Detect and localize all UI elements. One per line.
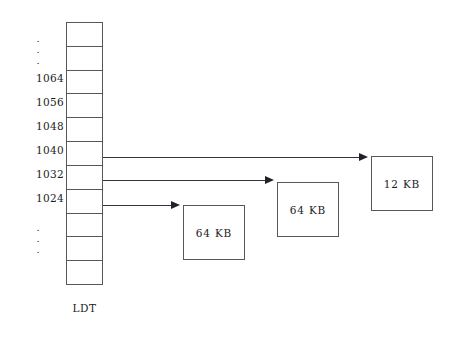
arrow-line-1032 bbox=[103, 180, 268, 181]
ldt-cell-1056 bbox=[67, 94, 102, 118]
ldt-cell-1032 bbox=[67, 166, 102, 190]
address-label-1024: 1024 bbox=[12, 192, 64, 204]
ldt-table bbox=[66, 22, 103, 285]
address-label-1040: 1040 bbox=[12, 144, 64, 156]
arrow-head-1032 bbox=[265, 176, 274, 184]
arrow-head-1040 bbox=[359, 153, 368, 161]
ldt-caption: LDT bbox=[66, 302, 103, 314]
arrow-head-1024 bbox=[171, 201, 180, 209]
ellipsis-bottom: . . . bbox=[12, 222, 64, 255]
ellipsis-dot: . bbox=[12, 55, 64, 66]
memory-segment-label: 12 KB bbox=[384, 178, 420, 190]
ellipsis-top: . . . bbox=[12, 33, 64, 66]
ellipsis-dot: . bbox=[12, 33, 64, 44]
memory-segment-box-1: 64 KB bbox=[183, 205, 245, 260]
ellipsis-dot: . bbox=[12, 244, 64, 255]
ldt-cell-1024 bbox=[67, 190, 102, 214]
ellipsis-dot: . bbox=[12, 44, 64, 55]
ellipsis-dot: . bbox=[12, 222, 64, 233]
memory-segment-label: 64 KB bbox=[196, 227, 232, 239]
ldt-cell bbox=[67, 47, 102, 71]
ldt-diagram-canvas: . . . 1064 1056 1048 1040 1032 1024 . . … bbox=[0, 0, 451, 337]
ldt-cell bbox=[67, 261, 102, 284]
address-label-1064: 1064 bbox=[12, 72, 64, 84]
ldt-cell-1064 bbox=[67, 71, 102, 95]
memory-segment-box-2: 64 KB bbox=[277, 182, 339, 237]
ldt-cell bbox=[67, 237, 102, 261]
memory-segment-label: 64 KB bbox=[290, 204, 326, 216]
address-label-1056: 1056 bbox=[12, 96, 64, 108]
address-label-1048: 1048 bbox=[12, 120, 64, 132]
memory-segment-box-3: 12 KB bbox=[371, 156, 433, 211]
ldt-cell bbox=[67, 23, 102, 47]
ldt-cell bbox=[67, 214, 102, 238]
arrow-line-1040 bbox=[103, 157, 362, 158]
arrow-line-1024 bbox=[103, 205, 174, 206]
ldt-cell-1048 bbox=[67, 118, 102, 142]
ellipsis-dot: . bbox=[12, 233, 64, 244]
address-label-1032: 1032 bbox=[12, 168, 64, 180]
ldt-cell-1040 bbox=[67, 142, 102, 166]
